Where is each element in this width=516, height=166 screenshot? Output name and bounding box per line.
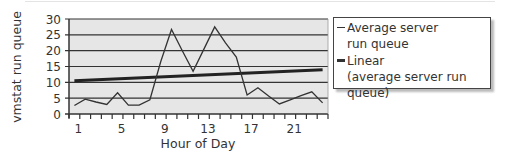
- x-tick-label: 21: [287, 122, 302, 136]
- x-axis-ticks: 159131721: [69, 114, 328, 136]
- y-tick-label: 25: [46, 28, 61, 42]
- legend-label: Average server run queue: [347, 20, 438, 52]
- x-tick-label: 9: [161, 122, 169, 136]
- x-tick-label: 13: [200, 122, 215, 136]
- legend-label: Linear (average server run queue): [347, 53, 487, 101]
- x-tick-label: 17: [243, 122, 258, 136]
- y-tick-label: 10: [46, 76, 61, 90]
- legend-item-linear-trend: Linear (average server run queue): [337, 53, 487, 101]
- x-axis-title: Hour of Day: [161, 136, 236, 151]
- thin-line-swatch-icon: [337, 27, 345, 28]
- x-tick-label: 1: [75, 122, 83, 136]
- x-tick-label: 5: [118, 122, 126, 136]
- thick-line-swatch-icon: [337, 59, 345, 62]
- y-axis-ticks: 051015202530: [46, 13, 61, 122]
- y-tick-label: 15: [46, 60, 61, 74]
- y-tick-label: 0: [53, 108, 61, 122]
- chart-legend: Average server run queue Linear (average…: [333, 17, 491, 89]
- y-axis-title: vmstat run queue: [9, 11, 24, 123]
- y-tick-label: 20: [46, 44, 61, 58]
- y-tick-label: 5: [53, 92, 61, 106]
- y-tick-label: 30: [46, 13, 61, 27]
- legend-item-average-run-queue: Average server run queue: [337, 20, 487, 52]
